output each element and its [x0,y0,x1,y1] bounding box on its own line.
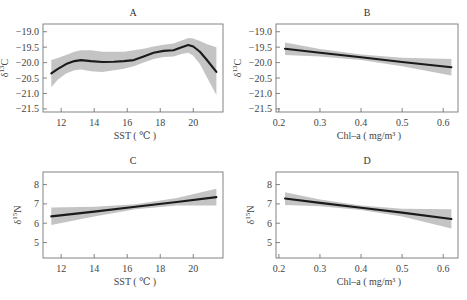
y-tick-label: −19.0 [249,26,272,37]
x-tick-label: 12 [56,263,66,274]
panel-title: B [364,7,371,18]
fit-line [285,49,451,67]
y-tick-label: 7 [267,198,272,209]
y-tick-label: −20.0 [16,57,39,68]
y-tick-label: 6 [34,218,39,229]
x-tick-label: 0.2 [273,117,286,128]
x-tick-label: 0.3 [314,263,327,274]
panel-title: D [363,155,370,166]
fit-line [51,197,216,216]
x-axis-label: SST ( ℃ ) [114,276,156,288]
y-tick-label: 8 [34,179,39,190]
y-tick-label: 5 [34,237,39,248]
panel-title: C [130,155,137,166]
x-axis-label: Chl–a ( mg/m³ ) [337,130,401,142]
y-tick-label: −21.0 [16,88,39,99]
fit-line [285,199,451,220]
y-tick-label: 5 [267,237,272,248]
x-tick-label: 0.3 [314,117,327,128]
y-tick-label: 6 [267,218,272,229]
y-tick-label: −19.0 [16,26,39,37]
y-tick-label: −19.5 [249,42,272,53]
x-tick-label: 18 [155,263,165,274]
panel-c: C12141618208765SST ( ℃ )δ15N [11,155,223,288]
panel-b: B0.20.30.40.50.6−19.0−19.5−20.0−20.5−21.… [231,7,458,142]
y-tick-label: −20.5 [16,73,39,84]
panel-a: A1214161820−19.0−19.5−20.0−20.5−21.0−21.… [0,7,223,142]
x-tick-label: 16 [122,263,132,274]
panel-d: D0.20.30.40.50.68765Chl–a ( mg/m³ )δ15N [244,155,458,288]
y-tick-label: −19.5 [16,42,39,53]
x-tick-label: 0.4 [355,117,368,128]
x-axis-label: Chl–a ( mg/m³ ) [337,276,401,288]
y-tick-label: 7 [34,198,39,209]
x-tick-label: 0.6 [437,117,450,128]
y-tick-label: −21.5 [249,103,272,114]
y-tick-label: 8 [267,179,272,190]
x-tick-label: 14 [89,263,99,274]
panel-title: A [129,7,137,18]
x-axis-label: SST ( ℃ ) [114,130,156,142]
x-tick-label: 0.4 [355,263,368,274]
y-tick-label: −20.5 [249,73,272,84]
x-tick-label: 16 [122,117,132,128]
y-axis-label: δ15N [244,206,256,225]
x-tick-label: 14 [89,117,99,128]
x-tick-label: 20 [188,263,198,274]
y-tick-label: −21.5 [16,103,39,114]
x-tick-label: 0.6 [437,263,450,274]
y-axis-label: δ15N [11,206,23,225]
y-axis-label: δ13C [0,58,10,77]
x-tick-label: 20 [188,117,198,128]
x-tick-label: 0.5 [396,263,409,274]
confidence-band [285,192,451,228]
y-tick-label: −20.0 [249,57,272,68]
x-tick-label: 0.5 [396,117,409,128]
x-tick-label: 12 [56,117,66,128]
x-tick-label: 18 [155,117,165,128]
y-tick-label: −21.0 [249,88,272,99]
x-tick-label: 0.2 [273,263,286,274]
y-axis-label: δ13C [231,58,243,77]
figure: A1214161820−19.0−19.5−20.0−20.5−21.0−21.… [0,0,467,300]
